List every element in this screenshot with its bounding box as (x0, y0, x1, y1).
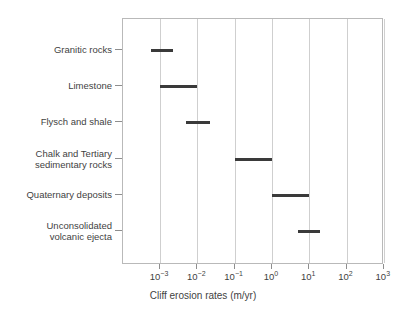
gridline (160, 19, 161, 263)
y-axis-tick (115, 194, 122, 195)
y-axis-category-label: Unconsolidated volcanic ejecta (0, 220, 112, 242)
gridline (235, 19, 236, 263)
y-axis-tick (115, 230, 122, 231)
x-axis-tick-label: 102 (338, 271, 352, 282)
y-axis-tick (115, 49, 122, 50)
gridline (384, 19, 385, 263)
x-axis-tick-label: 10−1 (224, 271, 243, 282)
x-axis-tick-label: 101 (301, 271, 315, 282)
y-axis-tick (115, 85, 122, 86)
x-axis-tick (234, 264, 235, 269)
x-axis-tick (159, 264, 160, 269)
y-axis-tick (115, 121, 122, 122)
x-axis-tick-label: 10−2 (187, 271, 206, 282)
range-bar (272, 194, 309, 197)
x-axis-title: Cliff erosion rates (m/yr) (0, 290, 406, 301)
y-axis-category-label: Chalk and Tertiary sedimentary rocks (0, 148, 112, 170)
range-bar (235, 158, 272, 161)
x-axis-tick (196, 264, 197, 269)
gridline (272, 19, 273, 263)
y-axis-category-label: Quaternary deposits (0, 189, 112, 200)
x-axis-tick (271, 264, 272, 269)
range-bar (186, 121, 210, 124)
plot-area (122, 18, 383, 264)
x-axis-tick-label: 100 (264, 271, 278, 282)
gridline (347, 19, 348, 263)
gridline (197, 19, 198, 263)
range-bar (160, 85, 197, 88)
y-axis-category-label: Limestone (0, 80, 112, 91)
y-axis-tick (115, 158, 122, 159)
x-axis-tick (346, 264, 347, 269)
x-axis-tick-label: 10−3 (150, 271, 169, 282)
gridline (309, 19, 310, 263)
x-axis-tick-label: 103 (376, 271, 390, 282)
range-bar (151, 49, 173, 52)
chart-page: Cliff erosion rates (m/yr) 10−310−210−11… (0, 0, 406, 320)
x-axis-tick (383, 264, 384, 269)
x-axis-tick (308, 264, 309, 269)
y-axis-category-label: Granitic rocks (0, 44, 112, 55)
range-bar (298, 230, 320, 233)
y-axis-category-label: Flysch and shale (0, 116, 112, 127)
